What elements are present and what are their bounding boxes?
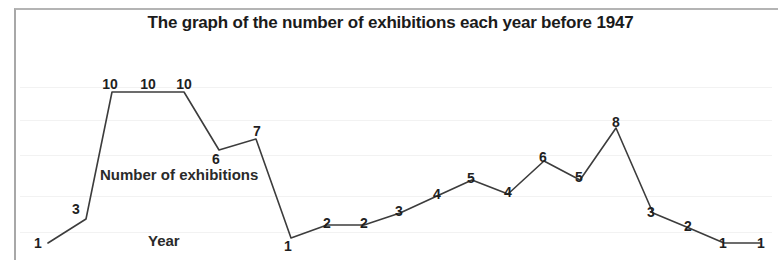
exhibitions-line (48, 92, 760, 243)
chart-screenshot: The graph of the number of exhibitions e… (0, 0, 781, 262)
chart-series-layer (0, 0, 781, 262)
